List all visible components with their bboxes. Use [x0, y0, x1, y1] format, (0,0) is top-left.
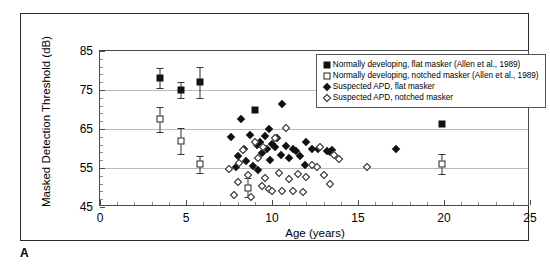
data-point-filled-square — [177, 87, 184, 94]
y-tick-label: 65 — [80, 122, 93, 136]
legend-item: Suspected APD, notched masker — [322, 92, 539, 103]
error-bar-cap — [157, 68, 164, 69]
data-point-open-diamond — [285, 174, 293, 182]
x-tick-label: 20 — [437, 211, 450, 225]
chart-legend: Normally developing, flat masker (Allen … — [316, 54, 546, 108]
y-minor-tick — [100, 106, 103, 107]
x-minor-tick — [169, 202, 170, 205]
data-point-filled-square — [251, 106, 258, 113]
y-minor-tick — [100, 176, 103, 177]
data-point-open-diamond — [268, 187, 276, 195]
data-point-open-diamond — [312, 163, 320, 171]
x-minor-tick — [238, 202, 239, 205]
data-point-filled-diamond — [226, 133, 234, 141]
x-tick-label: 0 — [97, 211, 104, 225]
data-point-open-diamond — [319, 171, 327, 179]
y-minor-tick — [100, 59, 103, 60]
data-point-open-square — [177, 137, 184, 144]
data-point-open-diamond — [278, 186, 286, 194]
error-bar-cap — [177, 128, 184, 129]
error-bar-cap — [196, 173, 203, 174]
error-bar-cap — [157, 107, 164, 108]
y-minor-tick — [100, 191, 103, 192]
data-point-filled-diamond — [302, 138, 310, 146]
x-minor-tick — [152, 202, 153, 205]
y-minor-tick — [100, 82, 103, 83]
data-point-filled-diamond — [266, 156, 274, 164]
data-point-open-diamond — [233, 178, 241, 186]
y-axis-title: Masked Detection Threshold (dB) — [36, 51, 56, 207]
data-point-filled-square — [196, 79, 203, 86]
data-point-open-diamond — [247, 193, 255, 201]
y-minor-tick — [100, 145, 103, 146]
legend-marker-filled-square-icon — [322, 59, 333, 70]
x-tick-label: 5 — [183, 211, 190, 225]
legend-marker-open-square-icon — [322, 70, 333, 81]
error-bar-cap — [439, 174, 446, 175]
data-point-open-square — [157, 116, 164, 123]
y-tick — [100, 129, 105, 130]
data-point-filled-square — [439, 120, 446, 127]
data-point-filled-square — [157, 75, 164, 82]
x-tick — [100, 200, 101, 205]
x-minor-tick — [220, 202, 221, 205]
data-point-open-square — [196, 161, 203, 168]
y-tick — [100, 207, 105, 208]
legend-label: Normally developing, notched masker (All… — [333, 70, 539, 81]
data-point-open-diamond — [282, 124, 290, 132]
x-minor-tick — [461, 202, 462, 205]
legend-label: Suspected APD, flat masker — [333, 81, 435, 92]
error-bar-cap — [439, 154, 446, 155]
x-tick — [530, 200, 531, 205]
figure-frame: 4555657585 0510152025 Normally developin… — [20, 13, 529, 241]
x-minor-tick — [289, 202, 290, 205]
data-point-open-diamond — [362, 163, 370, 171]
y-tick-label: 55 — [80, 161, 93, 175]
gridline — [100, 129, 528, 130]
panel-label: A — [20, 246, 29, 260]
x-tick-label: 25 — [523, 211, 536, 225]
x-minor-tick — [134, 202, 135, 205]
data-point-open-diamond — [294, 170, 302, 178]
x-minor-tick — [255, 202, 256, 205]
error-bar-cap — [157, 88, 164, 89]
legend-label: Normally developing, flat masker (Allen … — [333, 59, 521, 70]
y-minor-tick — [100, 160, 103, 161]
data-point-open-diamond — [299, 188, 307, 196]
data-point-open-diamond — [326, 179, 334, 187]
y-tick — [100, 90, 105, 91]
y-tick — [100, 51, 105, 52]
data-point-open-square — [244, 184, 251, 191]
x-tick-label: 15 — [351, 211, 364, 225]
x-minor-tick — [496, 202, 497, 205]
x-minor-tick — [203, 202, 204, 205]
legend-item: Normally developing, flat masker (Allen … — [322, 59, 539, 70]
data-point-open-diamond — [288, 187, 296, 195]
data-point-open-diamond — [230, 191, 238, 199]
data-point-filled-diamond — [285, 154, 293, 162]
x-tick — [186, 200, 187, 205]
x-minor-tick — [341, 202, 342, 205]
x-minor-tick — [306, 202, 307, 205]
x-minor-tick — [427, 202, 428, 205]
data-point-filled-diamond — [392, 144, 400, 152]
error-bar-cap — [177, 82, 184, 83]
data-point-filled-diamond — [271, 143, 279, 151]
error-bar-cap — [196, 67, 203, 68]
x-minor-tick — [392, 202, 393, 205]
legend-marker-open-diamond-icon — [322, 92, 333, 103]
data-point-open-diamond — [275, 169, 283, 177]
y-tick-label: 45 — [80, 200, 93, 214]
x-tick-label: 10 — [265, 211, 278, 225]
legend-marker-filled-diamond-icon — [322, 81, 333, 92]
data-point-filled-diamond — [237, 115, 245, 123]
x-tick — [358, 200, 359, 205]
y-minor-tick — [100, 98, 103, 99]
x-minor-tick — [324, 202, 325, 205]
y-minor-tick — [100, 113, 103, 114]
error-bar-cap — [196, 156, 203, 157]
error-bar-cap — [177, 98, 184, 99]
y-minor-tick — [100, 67, 103, 68]
legend-item: Suspected APD, flat masker — [322, 81, 539, 92]
y-minor-tick — [100, 74, 103, 75]
